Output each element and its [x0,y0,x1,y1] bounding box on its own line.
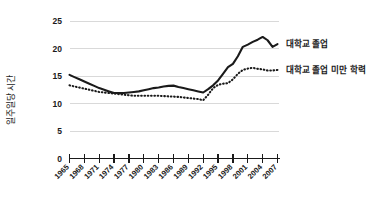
legend-label-2: 대학교 졸업 미만 학력 [286,64,367,75]
chart-container: 0510152025 19651968197119741977198019831… [0,0,375,208]
y-axis-tick-label: 25 [53,16,63,26]
legend-label-1: 대학교 졸업 [286,38,329,49]
y-axis-tick-label: 20 [53,44,63,54]
y-axis-title: 일주일당 시간 [6,75,16,126]
y-axis-tick-label: 0 [57,154,62,164]
line-chart: 0510152025 19651968197119741977198019831… [0,0,375,208]
y-axis-tick-label: 5 [57,126,62,136]
y-axis-tick-label: 10 [53,99,63,109]
y-axis-tick-label: 15 [53,71,63,81]
